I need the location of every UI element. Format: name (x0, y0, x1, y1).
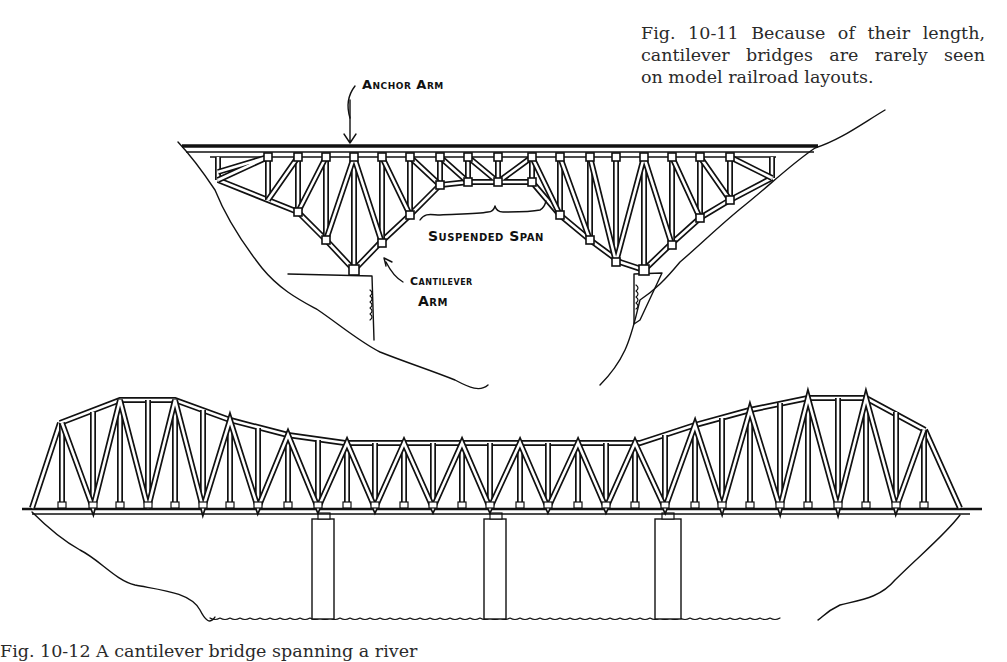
label-cantilever-arm-line1: Cantilever (410, 275, 473, 288)
label-suspended-span: Suspended Span (428, 228, 544, 244)
label-cantilever-arm-line2: Arm (418, 293, 448, 309)
label-anchor-arm: Anchor Arm (362, 77, 444, 92)
figure-caption-bottom: Fig. 10-12 A cantilever bridge spanning … (0, 640, 1007, 662)
bottom-cantilever-bridge (22, 398, 982, 621)
